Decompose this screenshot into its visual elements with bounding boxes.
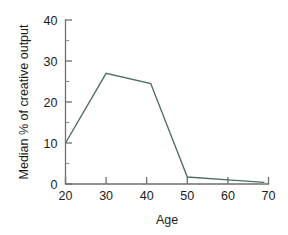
x-tick-label-40: 40 <box>140 189 154 203</box>
y-tick-label-40: 40 <box>44 14 58 28</box>
x-tick-label-30: 30 <box>99 189 113 203</box>
x-tick-label-20: 20 <box>59 189 73 203</box>
x-tick-label-70: 70 <box>262 189 276 203</box>
x-tick-label-60: 60 <box>221 189 235 203</box>
x-axis-title: Age <box>156 213 178 227</box>
y-axis-title: Median % of creative output <box>17 24 31 179</box>
chart-canvas: 010203040 203040506070 Age Median % of c… <box>0 0 288 235</box>
y-tick-label-10: 10 <box>44 137 58 151</box>
x-tick-label-50: 50 <box>180 189 194 203</box>
y-tick-label-20: 20 <box>44 96 58 110</box>
chart-figure: 010203040 203040506070 Age Median % of c… <box>0 0 288 235</box>
y-tick-label-0: 0 <box>51 178 58 192</box>
y-tick-label-30: 30 <box>44 55 58 69</box>
